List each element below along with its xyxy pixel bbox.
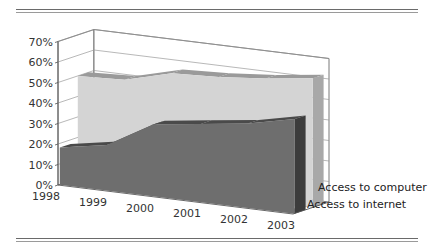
y-tick-label: 70% [29,36,53,49]
y-tick [55,185,58,186]
x-tick-label: 2001 [173,207,201,220]
series-end-cap [295,116,306,214]
y-tick-label: 30% [29,118,53,131]
x-tick-label: 2003 [267,219,295,232]
y-axis-tick-labels: 0%10%20%30%40%50%60%70% [29,36,53,193]
x-tick-label: 2002 [220,213,248,226]
series-label-access-to-computer: Access to computer [318,181,427,194]
y-tick-label: 40% [29,97,53,110]
y-tick-label: 60% [29,56,53,69]
x-tick-label: 1999 [79,196,107,209]
x-tick-label: 2000 [126,202,154,215]
y-tick-label: 20% [29,138,53,151]
y-tick-label: 50% [29,77,53,90]
x-tick-label: 1998 [32,190,60,203]
area-chart-3d: 0%10%20%30%40%50%60%70% 1998199920002001… [0,0,435,251]
series-label-access-to-internet: Access to internet [307,198,407,211]
y-tick-label: 10% [29,159,53,172]
